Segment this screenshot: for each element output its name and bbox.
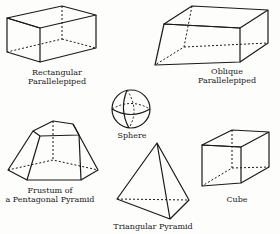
sphere-drawing [112,90,150,128]
label-frustum: Frustum of a Pentagonal Pyramid [0,186,100,204]
cube-drawing [202,130,269,186]
label-cube: Cube [220,195,254,204]
geometric-solids-figure: Rectangular Parallelepiped Oblique Paral… [0,0,280,234]
frustum-drawing [8,121,98,180]
rectangular-parallelepiped-drawing [7,6,96,62]
label-oblique-parallelepiped: Oblique Parallelepiped [187,67,267,85]
label-rectangular-parallelepiped: Rectangular Parallelepiped [22,68,92,86]
label-sphere: Sphere [110,131,154,140]
triangular-pyramid-drawing [117,143,189,219]
oblique-parallelepiped-drawing [155,6,268,65]
label-triangular-pyramid: Triangular Pyramid [106,222,200,231]
